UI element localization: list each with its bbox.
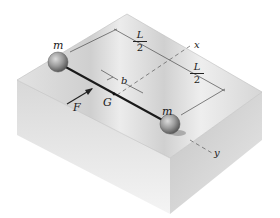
mass-left-sphere bbox=[48, 52, 68, 72]
mass-left-label: m bbox=[53, 40, 63, 51]
fraction-denominator: 2 bbox=[133, 42, 147, 53]
center-of-mass-label: G bbox=[103, 97, 112, 108]
fraction-numerator: L bbox=[133, 30, 147, 42]
axis-y-label: y bbox=[214, 148, 220, 158]
axis-x-label: x bbox=[194, 40, 200, 50]
fraction-denominator: 2 bbox=[190, 74, 204, 85]
fraction-numerator: L bbox=[190, 62, 204, 74]
half-length-right-fraction: L 2 bbox=[190, 62, 204, 85]
dumbbell-on-block-diagram: m m F G b x y L 2 L 2 bbox=[0, 0, 280, 218]
force-label: F bbox=[73, 102, 81, 113]
offset-b-label: b bbox=[121, 76, 127, 86]
mass-right-label: m bbox=[162, 106, 172, 117]
half-length-top-fraction: L 2 bbox=[133, 30, 147, 53]
center-of-mass-point bbox=[113, 93, 116, 96]
